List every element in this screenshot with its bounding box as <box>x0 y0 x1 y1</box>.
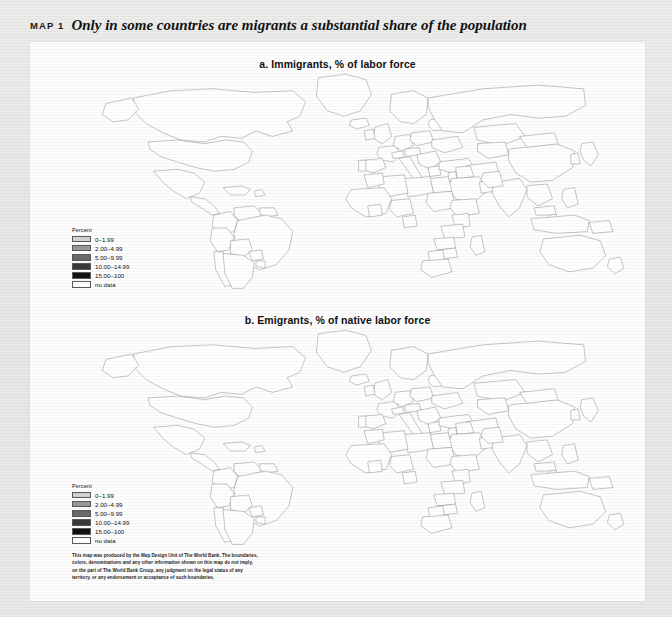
map-region-canada <box>133 345 305 398</box>
map-region-cote_divoire <box>368 204 383 217</box>
legend-item: no data <box>72 280 180 288</box>
legend-swatch <box>72 254 91 261</box>
legend-item: 10.00–14.99 <box>72 518 180 526</box>
map-region-japan <box>580 398 598 422</box>
map-region-tanzania <box>441 480 465 495</box>
legend-label: 10.00–14.99 <box>95 519 129 526</box>
map-region-iceland <box>349 118 369 129</box>
map-region-japan <box>580 142 598 166</box>
map-region-korea <box>571 153 580 164</box>
map-region-alaska <box>102 354 139 378</box>
legend-swatch <box>72 272 91 279</box>
map-region-malaysia <box>534 206 556 215</box>
legend-label: no data <box>95 281 116 288</box>
map-region-canada <box>133 89 305 142</box>
map-region-indonesia <box>531 471 590 489</box>
legend-label: 2.00–4.99 <box>95 501 123 508</box>
map-region-ireland <box>364 385 375 396</box>
map-region-indonesia <box>531 215 590 233</box>
map-region-united_states <box>148 140 252 171</box>
legend-item: 2.00–4.99 <box>72 244 180 252</box>
map-region-portugal <box>359 416 366 427</box>
legend-swatch <box>72 236 91 243</box>
map-region-nigeria <box>390 199 414 217</box>
legend-swatch <box>72 263 91 270</box>
legend-label: 5.00–9.99 <box>95 510 123 517</box>
map-region-mexico <box>154 425 205 454</box>
map-region-greenland <box>316 74 371 116</box>
map-region-madagascar <box>470 491 485 511</box>
map-region-malaysia <box>534 462 556 471</box>
legend-swatch <box>72 528 91 535</box>
map-region-china <box>509 400 575 438</box>
map-region-new_zealand <box>607 513 623 529</box>
map-region-philippines <box>562 444 578 464</box>
panel-b-subtitle: b. Emigrants, % of native labor force <box>30 314 645 326</box>
legend-item: 15.00–100 <box>72 271 180 279</box>
map-region-portugal <box>359 160 366 171</box>
map-region-madagascar <box>470 235 485 255</box>
map-region-poland <box>410 131 434 146</box>
legend-swatch <box>72 519 91 526</box>
map-region-nordics <box>390 347 428 380</box>
legend-label: 2.00–4.99 <box>95 245 123 252</box>
legend-label: 15.00–100 <box>95 272 124 279</box>
map-region-papua_new_guinea <box>589 477 613 490</box>
map-region-gabon <box>402 471 417 484</box>
map-region-nigeria <box>390 455 414 473</box>
map-region-new_zealand <box>607 257 623 273</box>
legend-emigrants: Percent 0–1.992.00–4.995.00–9.9910.00–14… <box>72 483 180 545</box>
map-source-note: This map was produced by the Map Design … <box>72 552 258 582</box>
map-region-greenland <box>316 330 371 372</box>
legend-label: no data <box>95 537 116 544</box>
map-region-central_america <box>190 197 219 215</box>
map-region-central_asia <box>478 398 509 414</box>
map-region-united_kingdom <box>373 124 391 144</box>
map-region-caribbean <box>254 189 265 196</box>
legend-label: 0–1.99 <box>95 236 114 243</box>
legend-item: no data <box>72 536 180 544</box>
map-region-zambia <box>434 237 456 250</box>
map-region-southeast_asia <box>527 184 553 206</box>
map-region-nordics <box>390 91 428 124</box>
map-region-ukraine <box>432 136 463 152</box>
figure-title-text: Only in some countries are migrants a su… <box>71 17 527 33</box>
map-region-poland <box>410 387 434 402</box>
legend-swatch <box>72 510 91 517</box>
map-region-south_africa <box>421 515 452 533</box>
map-number-label: MAP 1 <box>30 20 64 31</box>
legend-title: Percent <box>72 483 180 489</box>
legend-item: 5.00–9.99 <box>72 253 180 261</box>
map-region-united_states <box>148 396 252 427</box>
map-region-mexico <box>154 169 205 198</box>
legend-label: 10.00–14.99 <box>95 263 129 270</box>
legend-swatch <box>72 501 91 508</box>
legend-item: 0–1.99 <box>72 235 180 243</box>
map-region-australia <box>540 235 606 272</box>
map-region-united_kingdom <box>373 380 391 400</box>
map-region-southeast_asia <box>527 440 553 462</box>
map-region-south_africa <box>421 259 452 277</box>
map-region-ireland <box>364 129 375 140</box>
figure-title: MAP 1Only in some countries are migrants… <box>30 16 630 36</box>
map-region-alaska <box>102 98 139 122</box>
map-region-iceland <box>349 374 369 385</box>
map-region-cote_divoire <box>368 460 383 473</box>
legend-swatch <box>72 537 91 544</box>
map-region-philippines <box>562 188 578 208</box>
legend-item: 2.00–4.99 <box>72 500 180 508</box>
map-region-central_america <box>190 453 219 471</box>
legend-item: 0–1.99 <box>72 491 180 499</box>
map-region-australia <box>540 491 606 528</box>
map-region-central_asia <box>478 142 509 158</box>
figure-panel: a. Immigrants, % of labor force Percent … <box>30 42 645 601</box>
legend-swatch <box>72 492 91 499</box>
legend-swatch <box>72 245 91 252</box>
map-region-caribbean <box>223 186 250 195</box>
legend-rows: 0–1.992.00–4.995.00–9.9910.00–14.9915.00… <box>72 235 180 289</box>
legend-title: Percent <box>72 227 180 233</box>
map-region-ukraine <box>432 392 463 408</box>
map-region-china <box>509 144 575 182</box>
map-region-zambia <box>434 493 456 506</box>
map-region-tanzania <box>441 224 465 239</box>
